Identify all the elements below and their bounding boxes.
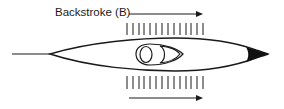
backstroke-diagram	[0, 0, 284, 109]
top-hatch-lines	[127, 23, 203, 35]
cell-body	[50, 38, 268, 71]
bottom-arrow-icon	[129, 95, 203, 101]
top-arrow-icon	[129, 11, 203, 17]
bottom-hatch-lines	[127, 76, 203, 89]
posterior-tip	[246, 47, 268, 62]
